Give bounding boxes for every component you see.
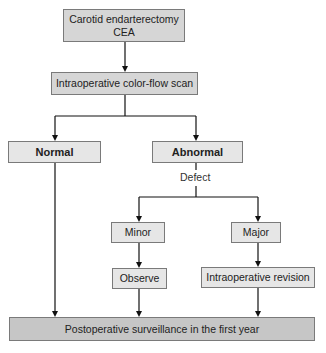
node-carotid-endarterectomy: Carotid endarterectomy CEA <box>63 9 185 42</box>
connector-lines <box>0 0 326 353</box>
node-color-flow-scan: Intraoperative color-flow scan <box>51 72 198 95</box>
node-minor-label: Minor <box>125 226 151 239</box>
node-cea-line2: CEA <box>113 26 135 39</box>
edge-label-defect: Defect <box>179 171 211 183</box>
node-postoperative-surveillance: Postoperative surveillance in the first … <box>9 317 315 341</box>
node-surveillance-label: Postoperative surveillance in the first … <box>65 323 259 336</box>
node-cea-line1: Carotid endarterectomy <box>69 13 179 26</box>
node-abnormal: Abnormal <box>152 141 243 163</box>
node-observe-label: Observe <box>120 272 160 285</box>
node-major: Major <box>231 222 281 243</box>
node-scan-label: Intraoperative color-flow scan <box>56 77 193 90</box>
node-intraoperative-revision: Intraoperative revision <box>201 267 315 288</box>
node-revision-label: Intraoperative revision <box>206 271 309 284</box>
node-minor: Minor <box>111 222 165 243</box>
node-major-label: Major <box>243 226 269 239</box>
node-observe: Observe <box>112 268 167 289</box>
node-normal: Normal <box>8 141 101 163</box>
node-abnormal-label: Abnormal <box>172 146 223 159</box>
node-normal-label: Normal <box>36 146 74 159</box>
